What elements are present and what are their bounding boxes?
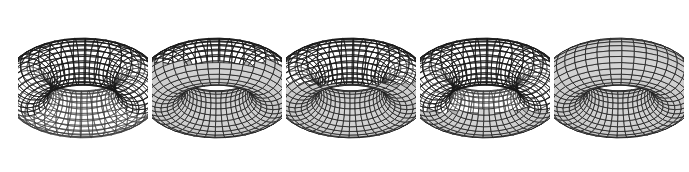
torus-panel-5: [554, 0, 684, 172]
torus-hidden-wireframe: [286, 38, 416, 89]
torus-surface: [554, 38, 684, 138]
torus-panel-3: [286, 0, 416, 172]
torus-hidden-wireframe: [18, 38, 148, 138]
torus-render-4: [420, 0, 550, 172]
torus-surface: [286, 80, 416, 138]
torus-render-2: [152, 0, 282, 172]
torus-render-1: [18, 0, 148, 172]
torus-surface: [420, 107, 550, 137]
torus-render-5: [554, 0, 684, 172]
torus-hidden-wireframe: [420, 38, 550, 116]
torus-panel-4: [420, 0, 550, 172]
torus-surface: [152, 59, 282, 138]
torus-panel-1: [18, 0, 148, 172]
torus-render-3: [286, 0, 416, 172]
torus-sequence-figure: [0, 0, 689, 172]
torus-panel-2: [152, 0, 282, 172]
